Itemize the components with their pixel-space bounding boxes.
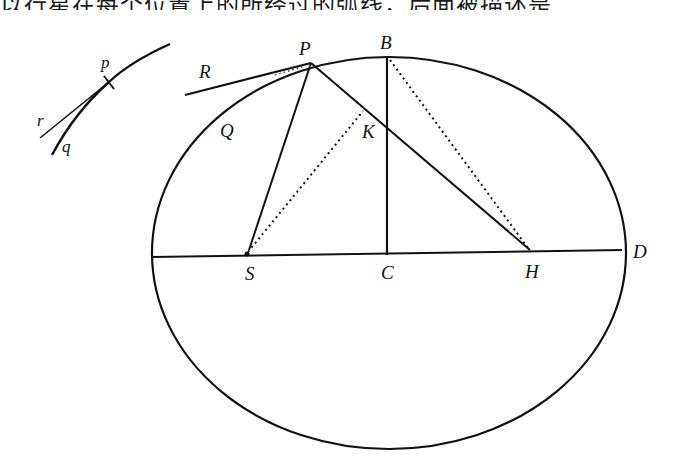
- line-ph: [311, 63, 530, 250]
- geometry-diagram: P B R Q K S C H D p r q: [0, 0, 674, 471]
- label-r: r: [37, 111, 44, 130]
- dotted-line-sk: [248, 111, 363, 252]
- dotted-line-bh: [390, 60, 528, 248]
- label-P: P: [298, 38, 311, 59]
- line-ps: [249, 63, 311, 250]
- label-q: q: [62, 137, 71, 156]
- label-B: B: [380, 32, 392, 53]
- label-D: D: [632, 241, 647, 262]
- focus-s-point: [245, 252, 250, 257]
- inset-tangent-pr: [40, 82, 109, 138]
- label-R: R: [198, 61, 211, 82]
- label-S: S: [245, 263, 255, 284]
- label-H: H: [524, 261, 540, 282]
- label-K: K: [361, 121, 376, 142]
- label-p: p: [100, 53, 110, 72]
- label-C: C: [381, 262, 394, 283]
- label-Q: Q: [220, 120, 234, 141]
